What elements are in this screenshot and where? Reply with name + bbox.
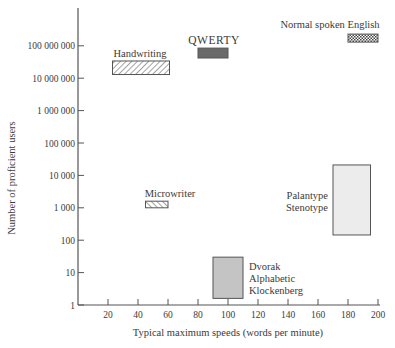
y-ticks: 1101001 00010 000100 0001 000 00010 000 … [28, 41, 85, 310]
box-qwerty [198, 48, 228, 58]
y-tick-label: 1 000 000 [37, 106, 75, 116]
box-palantype-stenotype [333, 165, 371, 235]
label-palantype-stenotype: Stenotype [286, 202, 328, 213]
box-normal-spoken-english [348, 34, 378, 42]
y-tick-label: 10 000 [49, 171, 75, 181]
data-boxes [113, 34, 379, 298]
x-tick-label: 20 [103, 310, 113, 320]
x-tick-label: 40 [133, 310, 143, 320]
label-qwerty: QWERTY [188, 34, 240, 46]
y-tick-label: 100 000 [44, 139, 75, 149]
y-tick-label: 100 [61, 236, 76, 246]
x-tick-label: 60 [163, 310, 173, 320]
label-palantype-stenotype: Palantype [287, 190, 329, 201]
x-tick-label: 120 [251, 310, 266, 320]
y-tick-label: 100 000 000 [28, 41, 76, 51]
label-handwriting: Handwriting [113, 48, 167, 59]
x-tick-label: 100 [221, 310, 236, 320]
y-tick-label: 10 000 000 [32, 74, 75, 84]
box-microwriter [146, 201, 169, 208]
y-tick-label: 1 000 [54, 203, 76, 213]
label-normal-spoken-english: Normal spoken English [280, 19, 380, 30]
label-dvorak-alphabetic-klockenberg: Alphabetic [249, 273, 295, 284]
box-handwriting [113, 61, 170, 75]
label-dvorak-alphabetic-klockenberg: Klockenberg [249, 285, 304, 296]
x-tick-label: 200 [371, 310, 386, 320]
y-tick-label: 10 [66, 268, 76, 278]
y-tick-label: 1 [70, 301, 75, 311]
x-tick-label: 160 [311, 310, 326, 320]
x-tick-label: 140 [281, 310, 296, 320]
y-axis-title: Number of proficient users [6, 121, 17, 234]
x-tick-label: 180 [341, 310, 356, 320]
x-ticks: 20406080100120140160180200 [103, 299, 385, 320]
label-dvorak-alphabetic-klockenberg: Dvorak [249, 261, 281, 272]
x-axis-title: Typical maximum speeds (words per minute… [133, 327, 324, 339]
x-tick-label: 80 [193, 310, 203, 320]
chart: 1101001 00010 000100 0001 000 00010 000 … [0, 0, 395, 348]
label-microwriter: Microwriter [145, 188, 196, 199]
box-dvorak-alphabetic-klockenberg [213, 257, 243, 298]
